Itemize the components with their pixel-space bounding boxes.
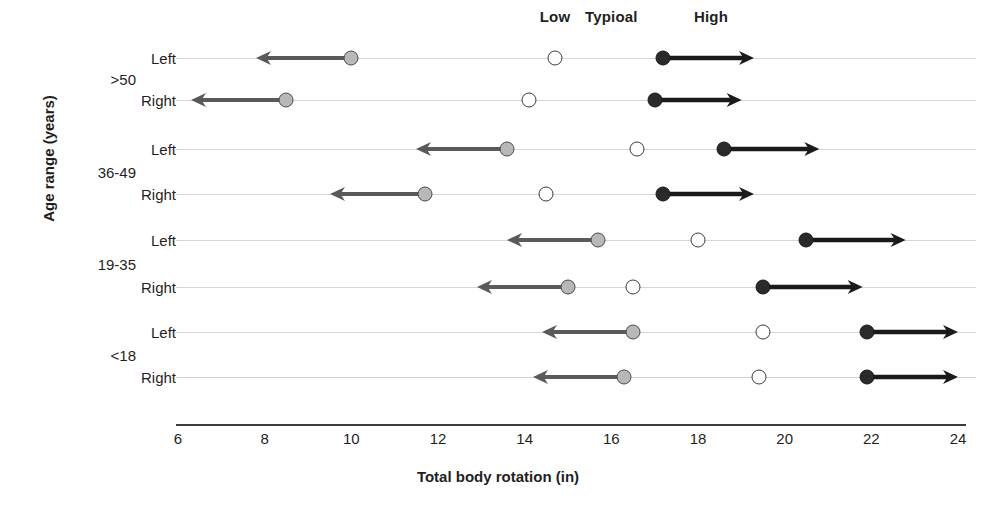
x-tick-label-22: 22	[863, 430, 880, 447]
low-marker-row-3	[418, 187, 433, 202]
high-marker-row-0	[656, 51, 671, 66]
low-arrow-6	[542, 321, 633, 343]
high-arrow-5	[763, 276, 863, 298]
x-tick-label-6: 6	[174, 430, 182, 447]
low-marker-row-2	[500, 142, 515, 157]
high-arrow-2	[724, 138, 819, 160]
x-tick-label-20: 20	[776, 430, 793, 447]
low-marker-row-7	[617, 370, 632, 385]
low-arrow-2	[416, 138, 507, 160]
high-arrow-3	[663, 183, 754, 205]
high-marker-row-3	[656, 187, 671, 202]
x-axis-title: Total body rotation (in)	[0, 468, 996, 485]
typical-marker-row-3	[539, 187, 554, 202]
low-marker-row-4	[591, 233, 606, 248]
high-arrow-7	[867, 366, 958, 388]
plot-area	[0, 0, 996, 511]
high-arrow-6	[867, 321, 958, 343]
typical-marker-row-0	[548, 51, 563, 66]
typical-marker-row-2	[630, 142, 645, 157]
high-marker-row-2	[717, 142, 732, 157]
high-marker-row-5	[756, 280, 771, 295]
typical-marker-row-5	[626, 280, 641, 295]
high-marker-row-4	[799, 233, 814, 248]
x-tick-label-8: 8	[260, 430, 268, 447]
low-marker-row-6	[626, 325, 641, 340]
x-tick-label-18: 18	[690, 430, 707, 447]
low-arrow-5	[477, 276, 568, 298]
low-marker-row-5	[561, 280, 576, 295]
typical-marker-row-1	[522, 93, 537, 108]
low-arrow-1	[191, 89, 286, 111]
low-arrow-7	[533, 366, 624, 388]
x-tick-label-10: 10	[343, 430, 360, 447]
high-arrow-0	[663, 47, 754, 69]
x-axis-line	[176, 424, 966, 426]
high-marker-row-6	[860, 325, 875, 340]
typical-marker-row-7	[751, 370, 766, 385]
x-tick-label-16: 16	[603, 430, 620, 447]
low-arrow-3	[330, 183, 425, 205]
high-marker-row-1	[647, 93, 662, 108]
chart-figure: Age range (years) LowTypioalHigh >5036-4…	[0, 0, 996, 511]
x-tick-label-24: 24	[950, 430, 967, 447]
low-marker-row-1	[279, 93, 294, 108]
low-marker-row-0	[344, 51, 359, 66]
low-arrow-4	[507, 229, 598, 251]
high-marker-row-7	[860, 370, 875, 385]
row-baseline-1	[176, 100, 976, 101]
typical-marker-row-6	[756, 325, 771, 340]
row-baseline-3	[176, 194, 976, 195]
low-arrow-0	[256, 47, 351, 69]
high-arrow-1	[655, 89, 742, 111]
typical-marker-row-4	[691, 233, 706, 248]
x-tick-label-14: 14	[516, 430, 533, 447]
row-baseline-2	[176, 149, 976, 150]
x-tick-label-12: 12	[430, 430, 447, 447]
high-arrow-4	[806, 229, 906, 251]
